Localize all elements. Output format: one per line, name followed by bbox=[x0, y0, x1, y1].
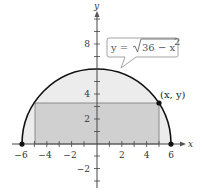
y-tick-label: 8 bbox=[84, 39, 90, 49]
y-tick-label: −2 bbox=[77, 164, 90, 174]
equation-exponent: 2 bbox=[174, 36, 180, 47]
x-axis-label: x bbox=[188, 139, 193, 149]
x-tick-label: −6 bbox=[14, 150, 28, 160]
x-tick-label: 6 bbox=[168, 150, 174, 160]
point-xy bbox=[156, 100, 161, 105]
x-tick-label: 4 bbox=[144, 150, 150, 160]
equation-label: y = bbox=[110, 42, 128, 53]
y-axis-arrow-icon bbox=[95, 11, 100, 17]
y-tick-label: 2 bbox=[84, 114, 90, 124]
x-tick-label: −2 bbox=[63, 150, 76, 160]
semicircle-graph: −6 −4 −2 2 4 6 8 4 2 −2 x y y = 36 − x 2… bbox=[0, 0, 202, 194]
x-axis-arrow-icon bbox=[180, 142, 186, 147]
point-positive-six bbox=[168, 141, 173, 146]
y-axis-label: y bbox=[93, 1, 100, 11]
x-tick-label: −4 bbox=[38, 150, 52, 160]
equation-radicand: 36 − x bbox=[142, 42, 175, 53]
point-negative-six bbox=[19, 141, 24, 146]
point-xy-label: (x, y) bbox=[160, 89, 186, 100]
x-tick-label: 2 bbox=[119, 150, 125, 160]
y-tick-label: 4 bbox=[84, 89, 90, 99]
